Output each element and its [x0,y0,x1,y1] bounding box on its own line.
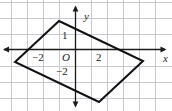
y-tick-label-neg2: −2 [56,66,68,77]
y-axis-label: y [84,11,89,22]
x-tick-label-pos2: 2 [96,52,102,63]
y-axis-arrow-down [73,102,79,108]
coordinate-plane-figure: y x O −2 2 1 −2 [0,0,172,111]
y-tick-label-pos1: 1 [62,30,68,41]
origin-label: O [62,52,70,63]
x-axis-label: x [163,53,168,64]
y-axis-arrow-up [73,6,79,12]
x-axis-arrow-left [3,47,9,53]
x-tick-label-neg2: −2 [32,52,44,63]
